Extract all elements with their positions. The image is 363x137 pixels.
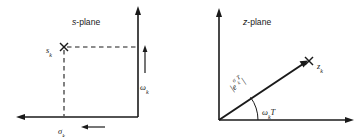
s-plane-omega-pointer-arrowhead — [143, 45, 148, 52]
z-plane-title-suffix: -plane — [247, 17, 271, 27]
figure-canvas — [0, 0, 363, 137]
z-plane-group — [216, 8, 354, 123]
s-plane-real-axis-label: σk — [58, 120, 65, 137]
s-plane-title-suffix: -plane — [76, 17, 100, 27]
s-plane-sigma-subscript: k — [62, 133, 65, 137]
s-plane-omega-subscript: k — [146, 89, 149, 95]
figure-root: s-plane sk ωk σk z-plane zk |eσkT| ωkT — [0, 0, 363, 137]
s-plane-pole-label-subscript: k — [49, 52, 52, 58]
z-plane-title: z-plane — [243, 11, 271, 29]
s-plane-sigma-pointer-arrowhead — [81, 125, 88, 130]
s-plane-pole-label: sk — [46, 39, 52, 58]
z-plane-pole-label-subscript: k — [320, 68, 323, 74]
s-plane-title: s-plane — [72, 11, 100, 29]
z-plane-angle-label: ωkT — [262, 101, 275, 120]
z-plane-pole-vector-ray — [219, 64, 303, 120]
z-plane-real-axis-arrowhead — [345, 117, 354, 123]
s-plane-imaginary-axis-label: ωk — [140, 76, 149, 95]
angle-period-symbol: T — [271, 108, 276, 117]
s-plane-pole-marker — [60, 43, 68, 51]
z-plane-angle-arc — [251, 97, 259, 120]
s-plane-real-axis-arrowhead — [16, 114, 25, 120]
z-plane-pole-label: zk — [317, 55, 323, 74]
z-plane-imaginary-axis-arrowhead — [216, 8, 222, 17]
s-plane-imaginary-axis-arrowhead — [135, 6, 141, 15]
